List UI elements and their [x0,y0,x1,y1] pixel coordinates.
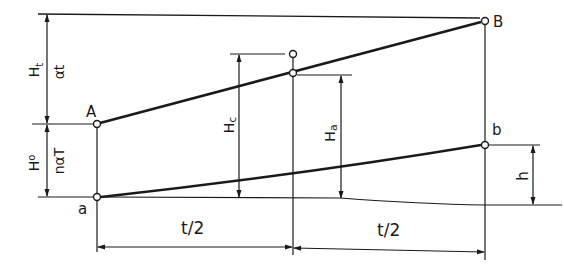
label-half-t-left: t/2 [181,218,204,238]
diagram-canvas: A a B b Ht αt Ho nαT Hc Ha h t/2 t/2 [0,0,564,270]
point-mid-line [290,70,297,77]
ground-line [101,197,562,205]
label-a: a [78,200,87,218]
dim-arrow-half-t-right [294,248,484,252]
label-alpha-t: αt [51,64,67,79]
label-Ht: Ht [26,63,45,78]
label-n-alpha-T: nαT [51,147,67,174]
label-Hc: Hc [221,117,239,134]
point-b [482,142,489,149]
point-a [94,194,101,201]
point-A [94,121,101,128]
top-reference-line [38,14,480,18]
label-B: B [493,13,503,31]
point-B [482,18,489,25]
point-mid-top [290,51,297,58]
label-Ha: Ha [322,124,340,141]
label-half-t-right: t/2 [377,220,400,240]
label-Ho: Ho [26,155,42,172]
label-b: b [492,121,502,139]
curve-a-b [101,145,481,197]
label-h: h [514,171,532,181]
label-A: A [86,103,97,121]
